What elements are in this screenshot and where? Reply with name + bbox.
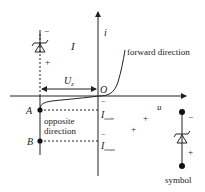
zener-iv-diagram: − + I i u O Uz forward direction A B opp… [0, 0, 205, 192]
symbol-minus: − [188, 112, 193, 122]
top-left-minus: − [44, 26, 49, 36]
symbol-top-terminal [179, 109, 185, 115]
axis-u-label: u [157, 102, 162, 112]
imin-minus: − [101, 97, 106, 106]
symbol-bottom-terminal [179, 163, 185, 169]
top-left-plus: + [45, 57, 50, 67]
opposite-label-line2: direction [44, 126, 76, 136]
imax-minus: − [101, 130, 106, 139]
symbol-plus: + [188, 147, 193, 157]
uz-label: Uz [64, 75, 74, 87]
point-a-label: A [25, 105, 33, 116]
symbol-caption: symbol [165, 175, 192, 185]
imax-label: Izmax [100, 140, 115, 152]
axis-i-label: i [104, 27, 107, 38]
opposite-label-line1: opposite [44, 116, 75, 126]
iv-curve [40, 50, 125, 110]
point-a-dot [37, 107, 42, 112]
imin-label: Izmin [100, 109, 114, 121]
plus-sign-1: + [143, 113, 148, 123]
point-b-label: B [27, 136, 33, 147]
point-b-dot [37, 138, 42, 143]
forward-direction-label: forward direction [127, 47, 190, 57]
region-current-label: I [70, 40, 76, 52]
origin-label: O [100, 84, 107, 95]
plus-sign-2: + [131, 124, 136, 134]
